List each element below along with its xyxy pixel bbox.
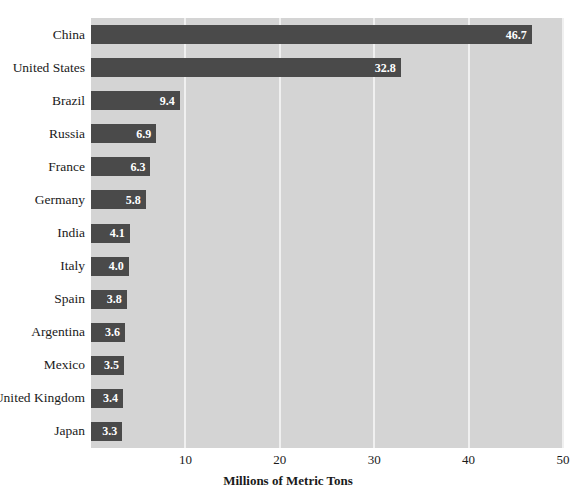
category-label-russia: Russia — [0, 126, 85, 142]
bar[interactable]: 3.8 — [91, 290, 127, 309]
x-axis-tick-labels: 1020304050 — [91, 452, 563, 470]
bar[interactable]: 3.3 — [91, 422, 122, 441]
bar[interactable]: 6.9 — [91, 124, 156, 143]
bar-value-label: 32.8 — [375, 62, 396, 74]
category-label-united-states: United States — [0, 60, 85, 76]
bar-row: 5.8 — [91, 190, 563, 209]
bar-chart: 46.732.89.46.96.35.84.14.03.83.63.53.43.… — [0, 0, 576, 495]
bar-row: 46.7 — [91, 25, 563, 44]
x-tick-label-10: 10 — [179, 452, 192, 468]
category-label-japan: Japan — [0, 423, 85, 439]
bar-row: 6.9 — [91, 124, 563, 143]
category-label-germany: Germany — [0, 192, 85, 208]
x-tick-label-30: 30 — [368, 452, 381, 468]
x-tick-label-50: 50 — [557, 452, 570, 468]
category-label-brazil: Brazil — [0, 93, 85, 109]
bar-value-label: 9.4 — [160, 95, 175, 107]
bar[interactable]: 3.5 — [91, 356, 124, 375]
bar[interactable]: 3.4 — [91, 389, 123, 408]
x-tick-label-40: 40 — [462, 452, 475, 468]
bar[interactable]: 3.6 — [91, 323, 125, 342]
bar-value-label: 3.4 — [103, 392, 118, 404]
bar-value-label: 3.6 — [105, 326, 120, 338]
bar[interactable]: 46.7 — [91, 25, 532, 44]
bar-row: 32.8 — [91, 58, 563, 77]
bar-row: 6.3 — [91, 157, 563, 176]
bar[interactable]: 32.8 — [91, 58, 401, 77]
bar-row: 9.4 — [91, 91, 563, 110]
bar-value-label: 3.3 — [102, 425, 117, 437]
bar-row: 4.1 — [91, 224, 563, 243]
category-label-spain: Spain — [0, 291, 85, 307]
category-label-united-kingdom: United Kingdom — [0, 390, 85, 406]
bar-value-label: 5.8 — [126, 194, 141, 206]
bar-row: 3.4 — [91, 389, 563, 408]
category-label-italy: Italy — [0, 258, 85, 274]
bar[interactable]: 5.8 — [91, 190, 146, 209]
bar-row: 4.0 — [91, 257, 563, 276]
x-axis-title: Millions of Metric Tons — [0, 473, 576, 489]
y-axis-category-labels: ChinaUnited StatesBrazilRussiaFranceGerm… — [0, 18, 85, 448]
plot-area: 46.732.89.46.96.35.84.14.03.83.63.53.43.… — [91, 18, 563, 448]
category-label-china: China — [0, 27, 85, 43]
x-tick-label-20: 20 — [273, 452, 286, 468]
bar-value-label: 6.9 — [136, 128, 151, 140]
bar[interactable]: 4.0 — [91, 257, 129, 276]
bar-value-label: 4.1 — [110, 227, 125, 239]
bar[interactable]: 9.4 — [91, 91, 180, 110]
bar-row: 3.6 — [91, 323, 563, 342]
category-label-france: France — [0, 159, 85, 175]
bar-row: 3.5 — [91, 356, 563, 375]
bar[interactable]: 6.3 — [91, 157, 150, 176]
bar-value-label: 46.7 — [506, 29, 527, 41]
bar-row: 3.8 — [91, 290, 563, 309]
category-label-argentina: Argentina — [0, 324, 85, 340]
bar-row: 3.3 — [91, 422, 563, 441]
category-label-mexico: Mexico — [0, 357, 85, 373]
bar-value-label: 6.3 — [130, 161, 145, 173]
bar[interactable]: 4.1 — [91, 224, 130, 243]
bar-value-label: 4.0 — [109, 260, 124, 272]
bar-value-label: 3.5 — [104, 359, 119, 371]
category-label-india: India — [0, 225, 85, 241]
bar-value-label: 3.8 — [107, 293, 122, 305]
